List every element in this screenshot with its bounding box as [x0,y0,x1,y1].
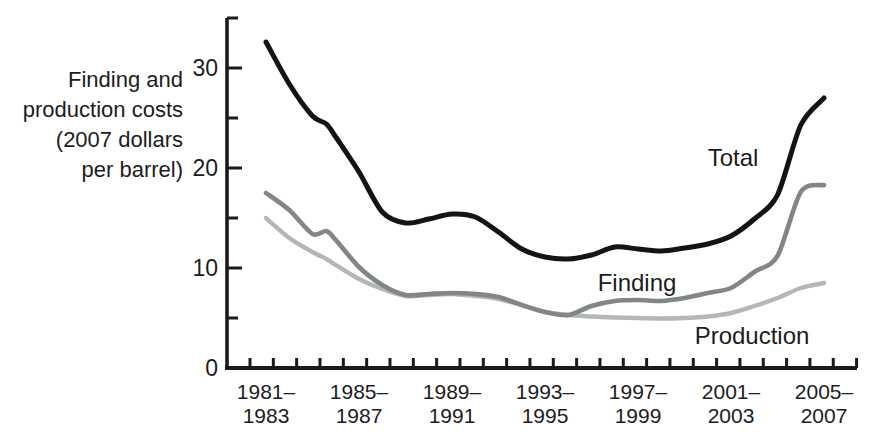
y-axis-title-line-4: per barrel) [82,157,183,182]
x-tick-label: 1983 [243,404,290,427]
x-tick-label: 1999 [615,404,662,427]
y-axis-title: Finding and production costs (2007 dolla… [23,67,183,182]
x-tick-label: 1991 [429,404,476,427]
y-axis-title-line-1: Finding and [68,67,183,92]
x-tick-label: 1997– [609,380,668,403]
y-axis-title-line-3: (2007 dollars [56,127,183,152]
x-tick-label: 1981– [237,380,296,403]
y-axis-title-line-2: production costs [23,97,183,122]
x-tick-label: 1995 [522,404,569,427]
cost-line-chart: 01020301981–19831985–19871989–19911993–1… [0,0,876,446]
y-tick-label: 0 [205,355,218,381]
y-tick-label: 10 [192,255,218,281]
annotation-total: Total [708,144,759,171]
x-tick-label: 2007 [801,404,848,427]
x-tick-label: 2003 [708,404,755,427]
series-line-finding [266,185,824,315]
x-tick-label: 1989– [423,380,482,403]
y-tick-label: 20 [192,155,218,181]
x-tick-label: 2001– [702,380,761,403]
x-tick-label: 1993– [516,380,575,403]
x-tick-label: 2005– [795,380,854,403]
annotation-finding: Finding [598,269,677,296]
annotation-production: Production [695,322,810,349]
y-tick-label: 30 [192,55,218,81]
chart-plot-area: 01020301981–19831985–19871989–19911993–1… [192,18,857,427]
figure: 01020301981–19831985–19871989–19911993–1… [0,0,876,446]
x-tick-label: 1987 [336,404,383,427]
x-tick-label: 1985– [330,380,389,403]
